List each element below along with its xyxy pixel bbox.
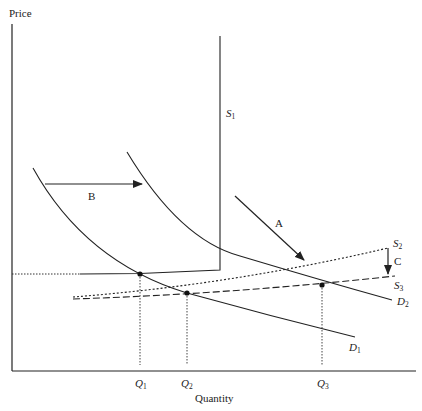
equilibrium-point-q3 [319, 282, 324, 287]
s3-label: S3 [394, 280, 403, 293]
x-axis-label: Quantity [195, 393, 234, 404]
arrow-c-label: C [394, 256, 401, 267]
equilibrium-point-q1 [137, 271, 142, 276]
q2-label: Q2 [181, 378, 193, 391]
q1-label: Q1 [135, 378, 147, 391]
supply-demand-diagram: Price Quantity S1 S2 S3 D1 D2 Q1 Q2 Q3 A… [0, 0, 422, 411]
supply-curve-s1 [80, 36, 220, 274]
arrow-b-label: B [88, 191, 95, 202]
demand-curve-d2 [127, 152, 392, 300]
d1-label: D1 [349, 342, 361, 355]
supply-curve-s2 [73, 248, 388, 297]
demand-curve-d1 [33, 168, 355, 337]
q3-label: Q3 [317, 378, 329, 391]
y-axis-label: Price [9, 8, 32, 19]
d2-label: D2 [397, 296, 409, 309]
arrow-a-label: A [275, 218, 283, 229]
equilibrium-point-q2 [184, 290, 189, 295]
arrow-a [235, 196, 304, 260]
s2-label: S2 [393, 238, 402, 251]
s1-label: S1 [226, 108, 235, 121]
